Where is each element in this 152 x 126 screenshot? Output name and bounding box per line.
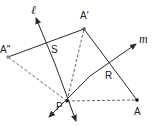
label-s: S: [51, 44, 58, 55]
reflection-diagram: ℓ m A′ A″ S R P A: [0, 0, 152, 126]
segment-p-a: [67, 100, 137, 101]
label-p: P: [56, 101, 63, 112]
label-a-prime: A′: [80, 10, 89, 21]
label-r: R: [105, 70, 112, 81]
point-a-double-prime: [6, 55, 10, 59]
label-a-double-prime: A″: [0, 44, 11, 55]
point-a-prime: [82, 27, 86, 31]
line-m: [90, 44, 136, 76]
segment-p-a-double-prime: [8, 57, 67, 101]
label-m: m: [139, 32, 148, 46]
point-a: [135, 98, 139, 102]
label-l: ℓ: [31, 3, 36, 17]
label-a: A: [134, 106, 141, 117]
point-p: [66, 100, 69, 103]
segment-a-prime-a: [84, 29, 137, 100]
